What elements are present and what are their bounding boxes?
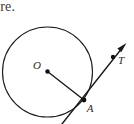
geometry-figure: ure. O A T <box>0 0 134 124</box>
point-label-a: A <box>86 102 94 114</box>
point-dot-o <box>45 69 49 73</box>
arrowhead-icon <box>117 43 126 52</box>
radius-segment-oa <box>48 72 85 101</box>
geometry-diagram-svg: O A T <box>0 0 134 124</box>
point-label-t: T <box>118 54 125 66</box>
point-dot-t <box>111 55 115 59</box>
point-label-o: O <box>33 59 41 71</box>
